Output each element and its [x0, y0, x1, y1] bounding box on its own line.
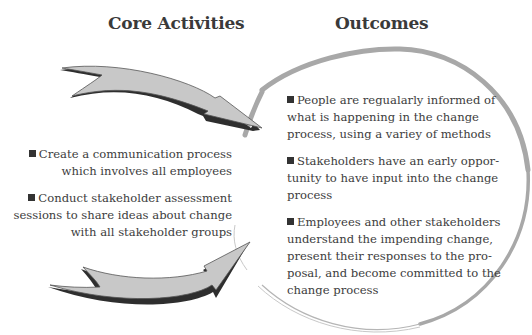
outcome-item: People are regualarly informed of what i…	[287, 92, 517, 143]
core-activities-list: Create a communication process which inv…	[0, 146, 232, 251]
outcome-item: Employees and other stakeholders underst…	[287, 214, 517, 299]
square-bullet-icon	[287, 157, 294, 164]
bottom-arrow-icon	[48, 242, 250, 305]
core-activity-line: with all stakeholder groups	[0, 224, 232, 241]
core-activity-item: Conduct stakeholder assessment sessions …	[0, 190, 232, 241]
core-activity-line: Create a communication process	[39, 147, 232, 161]
square-bullet-icon	[29, 150, 36, 157]
square-bullet-icon	[28, 194, 35, 201]
core-activity-line: sessions to share ideas about change	[0, 207, 232, 224]
core-activity-line: Conduct stakeholder assessment	[38, 191, 232, 205]
core-activity-item: Create a communication process which inv…	[0, 146, 232, 180]
outcome-text: People are regualarly informed of what i…	[287, 93, 495, 141]
outcome-item: Stakeholders have an early oppor- tunity…	[287, 153, 517, 204]
square-bullet-icon	[287, 96, 294, 103]
outcome-text: Employees and other stakeholders underst…	[287, 215, 501, 297]
core-activity-line: which involves all employees	[0, 163, 232, 180]
outcomes-list: People are regualarly informed of what i…	[287, 92, 517, 309]
outcome-text: Stakeholders have an early oppor- tunity…	[287, 154, 499, 202]
top-arrow-icon	[60, 66, 262, 131]
square-bullet-icon	[287, 218, 294, 225]
